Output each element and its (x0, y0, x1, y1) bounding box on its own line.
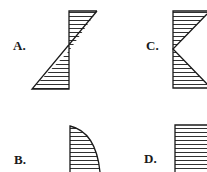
option-d-diagram (0, 125, 207, 172)
option-c-diagram (0, 11, 207, 88)
